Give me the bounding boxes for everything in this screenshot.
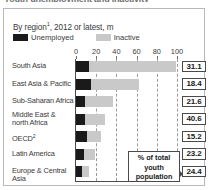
value-box: 15.2 xyxy=(182,131,206,143)
callout-box: % of total youth population xyxy=(128,151,180,182)
bar-segment-unemployed xyxy=(76,96,85,107)
bar-segment-inactive xyxy=(82,166,89,177)
x-tick-label-40: 40 xyxy=(112,47,120,56)
bar-row xyxy=(76,94,177,112)
category-label: Europe & Central Asia xyxy=(12,167,76,184)
callout-line-1: % of total xyxy=(129,153,179,163)
x-tick-label-80: 80 xyxy=(153,47,161,56)
x-tick-label-100: 100 xyxy=(171,47,183,56)
bar-segment-unemployed xyxy=(76,131,87,142)
subtitle-prefix: By region xyxy=(13,23,47,32)
value-box: 23.2 xyxy=(182,148,206,160)
value-box: 24.4 xyxy=(182,166,206,178)
legend-item-unemployed: Unemployed xyxy=(13,33,74,42)
bar-segment-inactive xyxy=(84,149,95,160)
bar-segment-inactive xyxy=(91,79,138,90)
bar-segment-unemployed xyxy=(76,61,89,72)
bar-segment-unemployed xyxy=(76,79,91,90)
category-label: South Asia xyxy=(12,62,76,70)
stacked-bar xyxy=(76,131,101,142)
category-label: Latin America xyxy=(12,150,76,158)
legend-label-unemployed: Unemployed xyxy=(31,33,74,42)
value-boxes: 31.118.421.640.615.223.224.4 xyxy=(182,59,208,183)
bar-segment-inactive xyxy=(89,61,176,72)
stacked-bar xyxy=(76,166,89,177)
chart-headline: Youth unemployment and inactivity xyxy=(4,0,204,2)
category-label: OECD2 xyxy=(12,132,76,144)
value-box: 31.1 xyxy=(182,61,206,73)
value-box: 18.4 xyxy=(182,78,206,90)
callout-line-3: population xyxy=(129,172,179,182)
subtitle-suffix: , 2012 or latest, m xyxy=(50,23,114,32)
stacked-bar xyxy=(76,96,113,107)
category-label: Middle East &north Africa xyxy=(12,111,76,128)
value-box: 21.6 xyxy=(182,96,206,108)
chart-panel: By region1, 2012 or latest, m Unemployed… xyxy=(3,8,205,186)
value-box: 40.6 xyxy=(182,113,206,125)
legend-label-inactive: Inactive xyxy=(114,33,140,42)
bar-row xyxy=(76,129,177,147)
stacked-bar xyxy=(76,114,105,125)
x-tick-label-60: 60 xyxy=(132,47,140,56)
category-label: East Asia & Pacific xyxy=(12,80,76,88)
chart-subtitle: By region1, 2012 or latest, m xyxy=(13,21,113,32)
callout-line-2: youth xyxy=(129,163,179,173)
bar-row xyxy=(76,112,177,130)
legend-swatch-unemployed xyxy=(13,34,28,41)
bar-row xyxy=(76,77,177,95)
callout-arrow-icon xyxy=(179,170,183,178)
bar-segment-inactive xyxy=(85,96,113,107)
bar-segment-inactive xyxy=(85,114,105,125)
bar-segment-unemployed xyxy=(76,114,85,125)
bar-row xyxy=(76,59,177,77)
bar-segment-inactive xyxy=(87,131,101,142)
stacked-bar xyxy=(76,79,139,90)
x-tick-label-20: 20 xyxy=(92,47,100,56)
legend-swatch-inactive xyxy=(96,34,111,41)
bar-segment-unemployed xyxy=(76,149,84,160)
stacked-bar xyxy=(76,149,95,160)
x-axis-tick-labels: 020406080100 xyxy=(76,47,179,56)
stacked-bar xyxy=(76,61,176,72)
chart-legend: Unemployed Inactive xyxy=(13,33,140,42)
x-tick-label-0: 0 xyxy=(74,47,78,56)
category-label: Sub-Saharan Africa xyxy=(12,97,76,105)
legend-item-inactive: Inactive xyxy=(96,33,140,42)
category-labels: South AsiaEast Asia & PacificSub-Saharan… xyxy=(12,59,74,183)
label-footnote-marker: 2 xyxy=(33,133,36,139)
